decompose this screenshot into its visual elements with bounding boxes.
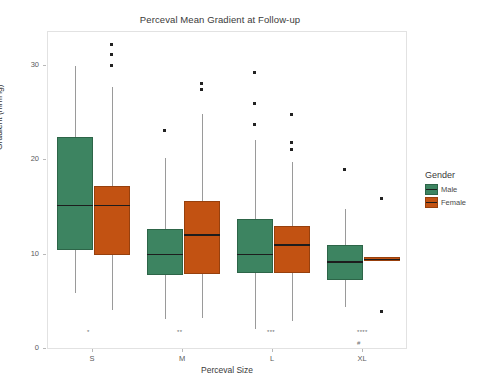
legend-title: Gender <box>425 170 495 180</box>
annotation-mark: * <box>87 329 90 335</box>
outlier-point <box>200 82 203 85</box>
x-tick-label: S <box>72 354 112 363</box>
plot-inner: **********# <box>48 32 406 348</box>
chart-canvas: Perceval Mean Gradient at Follow-up ****… <box>0 0 497 387</box>
y-tick-label: 10 <box>17 249 39 258</box>
outlier-point <box>163 129 166 132</box>
outlier-point <box>200 88 203 91</box>
y-tick-label: 30 <box>17 60 39 69</box>
legend-item-label: Female <box>441 198 466 207</box>
box-median-line <box>147 254 183 256</box>
legend-swatch-icon <box>425 184 438 195</box>
box-median-line <box>274 244 310 246</box>
chart-title: Perceval Mean Gradient at Follow-up <box>0 14 440 25</box>
outlier-point <box>110 53 113 56</box>
annotation-mark: # <box>357 340 361 346</box>
box-median-line <box>327 261 363 263</box>
outlier-point <box>110 43 113 46</box>
y-tick-mark <box>43 254 46 255</box>
box-female-l <box>274 226 310 272</box>
outlier-point <box>290 141 293 144</box>
x-tick-mark <box>272 349 273 352</box>
legend-swatch-icon <box>425 197 438 208</box>
x-tick-label: L <box>252 354 292 363</box>
annotation-mark: ** <box>177 329 182 335</box>
outlier-point <box>290 148 293 151</box>
y-tick-mark <box>43 348 46 349</box>
box-median-line <box>57 205 93 207</box>
x-tick-mark <box>182 349 183 352</box>
y-tick-label: 20 <box>17 154 39 163</box>
legend-item-female[interactable]: Female <box>425 197 495 208</box>
legend-items: MaleFemale <box>425 184 495 208</box>
x-tick-mark <box>92 349 93 352</box>
outlier-point <box>343 168 346 171</box>
y-tick-mark <box>43 65 46 66</box>
box-median-line <box>237 254 273 256</box>
outlier-point <box>253 102 256 105</box>
y-tick-label: 0 <box>17 343 39 352</box>
outlier-point <box>110 64 113 67</box>
legend-item-label: Male <box>441 185 457 194</box>
box-median-line <box>94 205 130 207</box>
outlier-point <box>290 113 293 116</box>
x-tick-label: M <box>162 354 202 363</box>
y-tick-mark <box>43 159 46 160</box>
y-axis-title: Gradient (mmHg) <box>0 84 4 150</box>
box-female-m <box>184 201 220 275</box>
outlier-point <box>253 123 256 126</box>
legend-item-male[interactable]: Male <box>425 184 495 195</box>
box-male-l <box>237 219 273 273</box>
box-male-s <box>57 137 93 250</box>
outlier-point <box>380 310 383 313</box>
x-tick-label: XL <box>342 354 382 363</box>
plot-area: **********# <box>47 31 407 349</box>
box-median-line <box>184 234 220 236</box>
box-female-s <box>94 186 130 255</box>
box-median-line <box>364 259 400 261</box>
x-axis-title: Perceval Size <box>47 365 407 375</box>
outlier-point <box>253 71 256 74</box>
outlier-point <box>380 197 383 200</box>
legend: Gender MaleFemale <box>425 170 495 210</box>
annotation-mark: *** <box>267 329 275 335</box>
annotation-mark: **** <box>357 329 368 335</box>
box-male-m <box>147 229 183 275</box>
x-tick-mark <box>362 349 363 352</box>
